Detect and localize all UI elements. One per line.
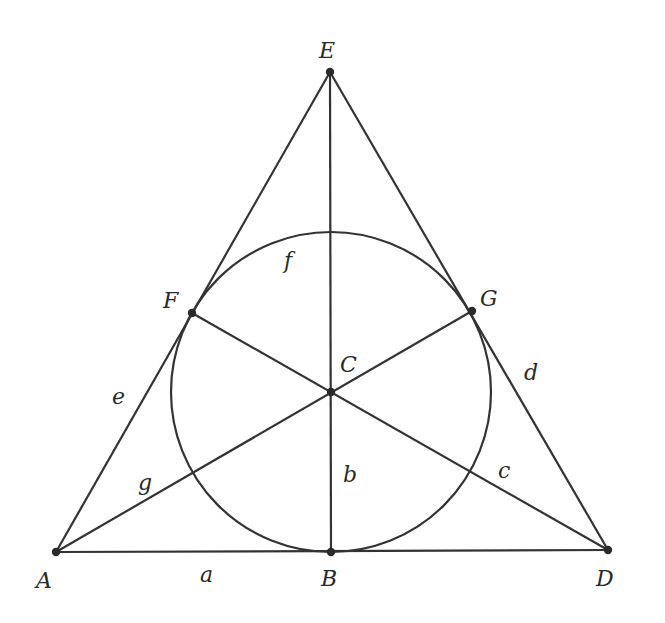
line-c [192,313,608,550]
point-C [327,388,335,396]
circle-label-f: f [282,248,296,273]
point-E [326,68,334,76]
line-label-a: a [200,562,213,587]
point-label-E: E [318,38,335,63]
point-G [468,307,476,315]
point-label-A: A [34,568,52,593]
point-label-G: G [480,286,498,311]
line-b [330,72,331,552]
line-label-d: d [524,360,538,385]
line-g [56,311,472,552]
point-label-D: D [595,566,614,591]
line-label-b: b [343,462,357,487]
line-label-e: e [112,384,125,409]
fano-plane-diagram: abcdegfABCDEFG [0,0,665,623]
line-label-g: g [138,470,152,495]
line-label-c: c [498,458,510,483]
point-A [52,548,60,556]
point-label-C: C [340,352,357,377]
point-label-B: B [320,566,337,591]
point-D [604,546,612,554]
point-B [327,548,335,556]
labels-layer: abcdegfABCDEFG [34,38,614,593]
point-label-F: F [162,288,179,313]
point-F [188,309,196,317]
points-layer [52,68,612,556]
